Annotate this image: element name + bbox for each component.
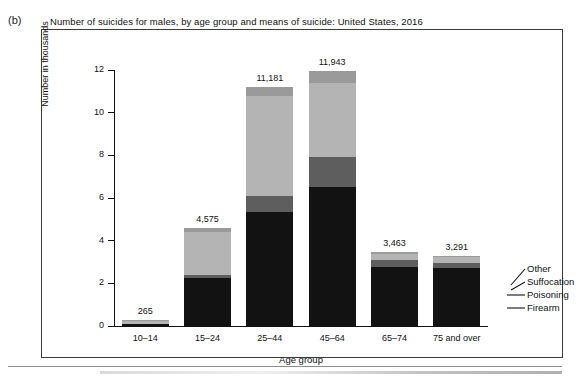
figure-bottom-rule xyxy=(8,366,562,367)
bar-total-label: 265 xyxy=(105,306,185,316)
bar-total-label: 11,181 xyxy=(230,73,310,83)
bar-segment-firearm[interactable] xyxy=(309,187,356,326)
y-axis-tick-label: 2 xyxy=(78,277,104,287)
stacked-bar[interactable] xyxy=(246,87,293,326)
stacked-bar[interactable] xyxy=(371,252,418,326)
stacked-bar[interactable] xyxy=(309,71,356,326)
bar-total-label: 3,291 xyxy=(417,242,497,252)
bar-segment-suffocation[interactable] xyxy=(246,96,293,196)
chart-title: Number of suicides for males, by age gro… xyxy=(50,16,423,27)
chart-legend: OtherSuffocationPoisoningFirearm xyxy=(489,263,579,325)
bar-segment-other[interactable] xyxy=(309,71,356,83)
bar-segment-poisoning[interactable] xyxy=(246,196,293,212)
bar-total-label: 11,943 xyxy=(292,57,372,67)
bar-segment-suffocation[interactable] xyxy=(309,83,356,158)
bar-segment-other[interactable] xyxy=(246,87,293,95)
legend-item-firearm[interactable]: Firearm xyxy=(527,302,560,313)
y-axis-tick-label: 12 xyxy=(78,64,104,74)
figure-panel-label: (b) xyxy=(8,14,21,26)
stacked-bar[interactable] xyxy=(184,228,231,326)
bar-segment-firearm[interactable] xyxy=(246,212,293,326)
bar-segment-poisoning[interactable] xyxy=(309,157,356,187)
bar-segment-firearm[interactable] xyxy=(122,324,169,326)
y-axis-tick-label: 4 xyxy=(78,235,104,245)
x-axis-line xyxy=(114,326,488,327)
x-axis-title: Age group xyxy=(114,354,488,365)
bar-segment-firearm[interactable] xyxy=(371,267,418,326)
stacked-bar[interactable] xyxy=(122,320,169,326)
chart-plot-frame: Number in thousands 024681012 10–1415–24… xyxy=(41,29,563,358)
bar-total-label: 4,575 xyxy=(168,214,248,224)
legend-item-other[interactable]: Other xyxy=(527,263,551,274)
bar-segment-firearm[interactable] xyxy=(433,268,480,326)
bar-series-layer: 2654,57511,18111,9433,4633,291 xyxy=(114,70,488,326)
bar-segment-firearm[interactable] xyxy=(184,278,231,326)
figure-bottom-cutoff-text xyxy=(100,371,562,374)
x-axis-tick-label: 75 and over xyxy=(412,333,502,343)
legend-item-poisoning[interactable]: Poisoning xyxy=(527,289,569,300)
y-axis-title: Number in thousands xyxy=(40,0,50,134)
legend-item-suffocation[interactable]: Suffocation xyxy=(527,276,574,287)
bar-segment-suffocation[interactable] xyxy=(184,232,231,275)
y-axis-tick-label: 0 xyxy=(78,320,104,330)
y-axis-tick-label: 8 xyxy=(78,149,104,159)
y-axis-tick-label: 10 xyxy=(78,107,104,117)
stacked-bar[interactable] xyxy=(433,256,480,326)
y-axis-tick-label: 6 xyxy=(78,192,104,202)
bar-segment-poisoning[interactable] xyxy=(371,260,418,267)
